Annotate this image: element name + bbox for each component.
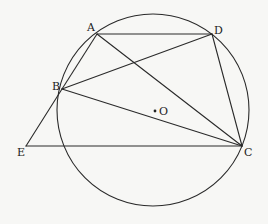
segment-eb bbox=[26, 89, 62, 146]
label-a: A bbox=[86, 21, 96, 34]
segment-bc bbox=[62, 89, 242, 146]
label-c: C bbox=[244, 146, 252, 159]
segment-ab bbox=[62, 34, 97, 89]
label-e: E bbox=[17, 146, 25, 159]
label-b: B bbox=[52, 80, 60, 93]
label-d: D bbox=[214, 24, 223, 37]
segment-dc bbox=[212, 34, 242, 146]
label-o: O bbox=[159, 105, 168, 118]
segment-ac bbox=[97, 34, 242, 146]
center-point-o bbox=[154, 110, 157, 113]
circle-o bbox=[57, 14, 249, 206]
geometry-diagram: A D B C E O bbox=[0, 0, 268, 224]
